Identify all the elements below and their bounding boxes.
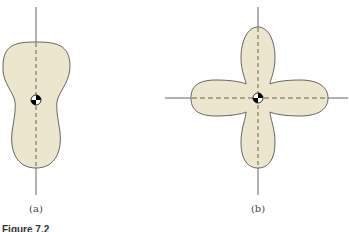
- figure-caption: Figure 7.2: [2, 224, 49, 232]
- center-of-gravity-icon: [253, 93, 263, 103]
- panel-a-label: (a): [29, 203, 43, 214]
- figure-canvas: [0, 0, 349, 232]
- panel-a-diagram: [3, 7, 70, 195]
- panel-b-diagram: [165, 7, 348, 195]
- center-of-gravity-icon: [31, 95, 41, 105]
- panel-b-label: (b): [251, 203, 265, 214]
